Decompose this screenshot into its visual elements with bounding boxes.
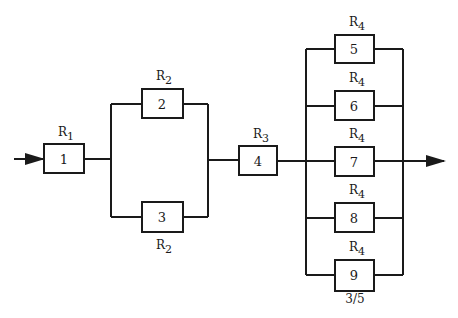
reliability-block-diagram: 1 R1 2 R2 3 R2 4 R3 [0, 0, 458, 318]
block-9: 9 R4 [335, 240, 374, 291]
block-9-number: 9 [350, 268, 358, 283]
block-6-number: 6 [350, 99, 358, 114]
block-8-reliability: R4 [349, 183, 365, 201]
block-5: 5 R4 [335, 15, 374, 63]
block-8: 8 R4 [335, 183, 374, 232]
block-3-number: 3 [158, 210, 166, 225]
block-4-reliability: R3 [253, 127, 269, 145]
block-1-number: 1 [60, 152, 68, 167]
block-5-number: 5 [350, 42, 358, 57]
block-9-reliability: R4 [349, 240, 365, 258]
block-3: 3 R2 [142, 202, 183, 256]
block-2-number: 2 [158, 97, 166, 112]
block-1-reliability: R1 [58, 125, 74, 143]
block-7: 7 R4 [335, 127, 374, 176]
block-4: 4 R3 [239, 127, 277, 175]
block-7-number: 7 [350, 155, 358, 170]
block-7-reliability: R4 [349, 127, 365, 145]
block-5-reliability: R4 [349, 15, 365, 33]
block-2-reliability: R2 [156, 69, 172, 87]
block-6: 6 R4 [335, 71, 374, 120]
block-6-reliability: R4 [349, 71, 365, 89]
k-out-of-n-label: 3/5 [345, 292, 364, 306]
block-2: 2 R2 [142, 69, 183, 118]
block-1: 1 R1 [44, 125, 84, 173]
block-8-number: 8 [350, 211, 358, 226]
block-4-number: 4 [254, 154, 262, 169]
block-3-reliability: R2 [156, 238, 172, 256]
